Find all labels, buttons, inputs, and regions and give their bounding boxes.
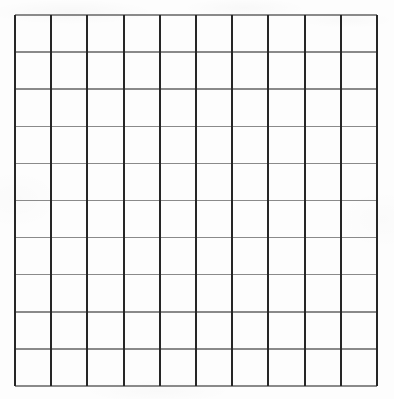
- grid-cell[interactable]: [196, 89, 232, 126]
- grid-cell[interactable]: [160, 312, 196, 349]
- grid-cell[interactable]: [15, 15, 51, 52]
- grid-cell[interactable]: [232, 126, 268, 163]
- grid-cell[interactable]: [15, 89, 51, 126]
- grid-cell[interactable]: [268, 312, 304, 349]
- grid-cell[interactable]: [232, 312, 268, 349]
- grid-cell[interactable]: [160, 275, 196, 312]
- grid-cell[interactable]: [196, 15, 232, 52]
- grid-cell[interactable]: [268, 349, 304, 386]
- grid-cell[interactable]: [51, 201, 87, 238]
- grid-cell[interactable]: [196, 126, 232, 163]
- grid-cell[interactable]: [51, 163, 87, 200]
- grid-cell[interactable]: [305, 201, 341, 238]
- grid-cell[interactable]: [232, 52, 268, 89]
- grid-cell[interactable]: [196, 349, 232, 386]
- grid-cell[interactable]: [124, 349, 160, 386]
- grid-cell[interactable]: [341, 163, 377, 200]
- grid-cell[interactable]: [15, 349, 51, 386]
- grid-cell[interactable]: [196, 52, 232, 89]
- grid-cell[interactable]: [160, 163, 196, 200]
- grid-cell[interactable]: [124, 163, 160, 200]
- grid-cell[interactable]: [124, 89, 160, 126]
- grid-cell[interactable]: [51, 15, 87, 52]
- grid-cell[interactable]: [341, 201, 377, 238]
- grid-cell[interactable]: [124, 238, 160, 275]
- grid-cell[interactable]: [196, 312, 232, 349]
- grid-cell[interactable]: [51, 52, 87, 89]
- grid-cell[interactable]: [160, 89, 196, 126]
- grid-cell[interactable]: [305, 15, 341, 52]
- grid-cell[interactable]: [232, 275, 268, 312]
- grid-cell[interactable]: [341, 312, 377, 349]
- grid-cell[interactable]: [160, 52, 196, 89]
- grid-cell[interactable]: [232, 201, 268, 238]
- grid-cell[interactable]: [15, 201, 51, 238]
- grid-cell[interactable]: [15, 312, 51, 349]
- grid-cell[interactable]: [160, 126, 196, 163]
- grid-cell[interactable]: [87, 163, 123, 200]
- grid-cell[interactable]: [15, 163, 51, 200]
- grid-cell[interactable]: [196, 163, 232, 200]
- grid-cell[interactable]: [305, 275, 341, 312]
- grid-cell[interactable]: [51, 349, 87, 386]
- grid-cell[interactable]: [87, 201, 123, 238]
- grid-cell[interactable]: [15, 238, 51, 275]
- grid-cell[interactable]: [305, 312, 341, 349]
- grid-cell[interactable]: [305, 89, 341, 126]
- grid-cell[interactable]: [232, 89, 268, 126]
- grid-cell[interactable]: [268, 201, 304, 238]
- grid-cell[interactable]: [87, 89, 123, 126]
- grid-cell[interactable]: [341, 15, 377, 52]
- grid-cell[interactable]: [160, 349, 196, 386]
- grid-cell[interactable]: [124, 126, 160, 163]
- grid-cell[interactable]: [124, 312, 160, 349]
- grid-cell[interactable]: [87, 15, 123, 52]
- grid-cell[interactable]: [305, 126, 341, 163]
- grid-cell[interactable]: [305, 52, 341, 89]
- grid-cell[interactable]: [124, 52, 160, 89]
- grid-cell[interactable]: [87, 349, 123, 386]
- grid-cell[interactable]: [305, 349, 341, 386]
- grid-cell[interactable]: [51, 238, 87, 275]
- grid-cell[interactable]: [160, 15, 196, 52]
- grid-cell[interactable]: [268, 89, 304, 126]
- grid-cell[interactable]: [51, 275, 87, 312]
- grid-cell[interactable]: [51, 126, 87, 163]
- grid-cell[interactable]: [15, 126, 51, 163]
- grid-cell[interactable]: [268, 52, 304, 89]
- grid-cell[interactable]: [160, 201, 196, 238]
- grid-cell[interactable]: [305, 238, 341, 275]
- grid-cell[interactable]: [341, 89, 377, 126]
- grid-cell[interactable]: [87, 52, 123, 89]
- grid-cell[interactable]: [341, 349, 377, 386]
- grid-cell[interactable]: [124, 15, 160, 52]
- grid-cell[interactable]: [268, 163, 304, 200]
- grid-cell[interactable]: [196, 275, 232, 312]
- grid-cell[interactable]: [341, 52, 377, 89]
- blank-grid[interactable]: [15, 15, 377, 386]
- grid-cell[interactable]: [341, 238, 377, 275]
- grid-cell[interactable]: [268, 15, 304, 52]
- grid-cell[interactable]: [15, 52, 51, 89]
- grid-cell[interactable]: [232, 238, 268, 275]
- grid-cell[interactable]: [160, 238, 196, 275]
- grid-cell[interactable]: [51, 312, 87, 349]
- grid-cell[interactable]: [87, 126, 123, 163]
- grid-cell[interactable]: [341, 275, 377, 312]
- grid-cell[interactable]: [87, 312, 123, 349]
- grid-cell[interactable]: [124, 275, 160, 312]
- grid-cell[interactable]: [232, 163, 268, 200]
- grid-cell[interactable]: [196, 201, 232, 238]
- grid-cell[interactable]: [124, 201, 160, 238]
- grid-cell[interactable]: [268, 126, 304, 163]
- grid-cell[interactable]: [87, 238, 123, 275]
- grid-cell[interactable]: [232, 349, 268, 386]
- grid-cell[interactable]: [196, 238, 232, 275]
- grid-cell[interactable]: [87, 275, 123, 312]
- grid-cell[interactable]: [268, 275, 304, 312]
- grid-cell[interactable]: [232, 15, 268, 52]
- grid-cell[interactable]: [268, 238, 304, 275]
- grid-cell[interactable]: [305, 163, 341, 200]
- grid-cell[interactable]: [341, 126, 377, 163]
- grid-cell[interactable]: [51, 89, 87, 126]
